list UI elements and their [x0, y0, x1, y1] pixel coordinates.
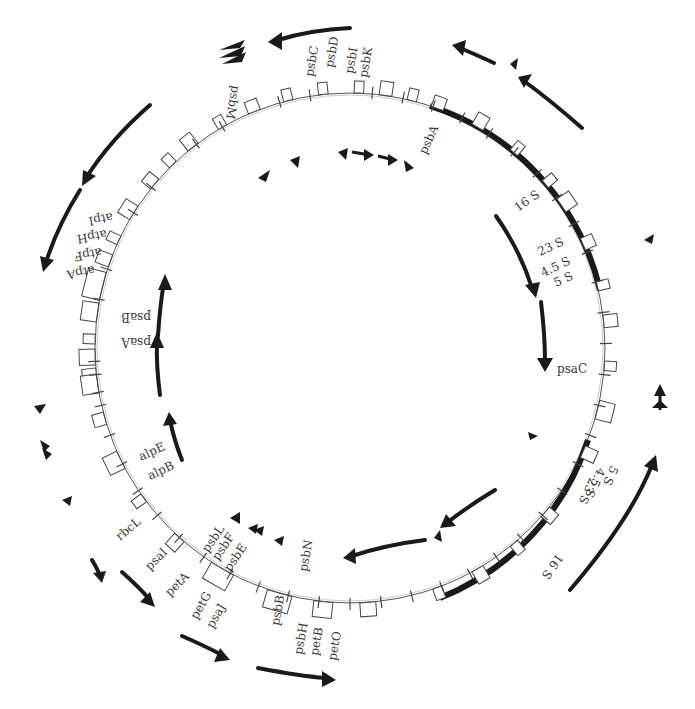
transcript-arrow-bottom-3 — [258, 668, 325, 678]
gene-label-psbM: psbM — [223, 84, 243, 120]
gene-block — [407, 88, 419, 102]
transcript-arrow-inner-bottom-1 — [448, 490, 495, 522]
transcript-arrow-topright-2 — [524, 81, 582, 128]
arrowhead-icon — [62, 496, 72, 506]
gene-block — [161, 153, 176, 168]
arrowhead-icon — [388, 154, 398, 166]
arrowhead-icon — [434, 530, 442, 542]
gene-label-16S-a: 16 S — [512, 187, 542, 214]
gene-block — [354, 81, 364, 93]
gene-label-psbA: psbA — [416, 123, 442, 157]
gene-block — [595, 400, 615, 423]
transcript-arrow-upperleft-1 — [86, 105, 150, 178]
gene-tick — [278, 96, 281, 108]
gene-block — [281, 88, 293, 102]
gene-label-alpB: alpB — [145, 458, 176, 482]
arrowhead-icon — [158, 274, 172, 290]
arrowhead-icon — [452, 40, 466, 56]
arrowhead-icon — [404, 160, 414, 172]
gene-label-psbN: psbN — [296, 539, 315, 573]
gene-block — [557, 191, 578, 212]
gene-block — [317, 82, 328, 95]
gene-block — [102, 451, 125, 475]
gene-block — [433, 586, 446, 601]
genome-ring-inner — [97, 95, 603, 601]
arrowhead-icon — [40, 256, 54, 272]
gene-tick — [372, 87, 373, 99]
arrowhead-icon — [258, 170, 270, 182]
transcript-arrow-inner-left-1 — [170, 420, 182, 460]
gene-blocks — [79, 81, 618, 619]
arrowhead-icon — [510, 58, 518, 70]
gene-tick — [88, 361, 100, 362]
gene-label-petB: petB — [307, 626, 326, 657]
gene-label-rbcL: rbcL — [113, 514, 144, 543]
transcript-arrows — [40, 28, 658, 687]
transcript-arrow-inner-left-3 — [158, 282, 164, 336]
arrowhead-icon — [290, 156, 300, 168]
gene-label-psbD: psbD — [322, 35, 341, 68]
arrowhead-icon — [268, 32, 282, 50]
arrowhead-icon — [322, 671, 336, 687]
gene-block — [131, 494, 146, 509]
gene-tick — [598, 312, 610, 314]
gene-label-23S-b: 23 S — [576, 476, 600, 507]
gene-block — [379, 81, 394, 97]
gene-label-16S-b: 16 S — [539, 551, 566, 581]
arrowhead-icon — [644, 234, 654, 244]
gene-label-atpH: atpH — [76, 227, 108, 246]
arrowhead-icon — [93, 571, 106, 583]
gene-tick — [101, 267, 112, 271]
arrowhead-icon — [537, 358, 553, 372]
gene-block — [79, 349, 96, 366]
gene-tick — [410, 591, 413, 603]
arrowhead-icon — [528, 432, 538, 440]
gene-block — [83, 334, 95, 344]
arrowhead-icon — [274, 536, 284, 546]
gene-label-psaB: psaB — [121, 310, 151, 324]
gene-tick — [95, 404, 107, 407]
arrowhead-icon — [42, 448, 52, 460]
gene-block — [80, 374, 99, 395]
arrowhead-icon — [652, 400, 668, 408]
gene-block — [360, 602, 377, 617]
gene-block — [603, 314, 618, 328]
transcript-arrow-right-inner-2 — [541, 302, 545, 362]
gene-tick — [380, 596, 381, 608]
transcript-arrow-right-inner-1 — [496, 216, 532, 288]
gene-label-psaC: psaC — [557, 362, 587, 376]
genome-ring — [95, 93, 605, 603]
gene-tick — [309, 89, 311, 101]
gene-tick — [599, 374, 611, 375]
gene-label-psbC: psbC — [302, 45, 321, 78]
transcript-arrow-bottom-2 — [182, 636, 222, 655]
transcript-arrow-topright-1 — [460, 48, 494, 63]
arrowhead-icon — [230, 512, 240, 524]
gene-label-psaA: psaA — [121, 335, 151, 349]
gene-block — [92, 412, 107, 428]
gene-labels: psbMpsbCpsbDpsbIpsbKpsbA16 S23 S4.5 S5 S… — [65, 35, 621, 661]
arrowhead-icon — [364, 149, 374, 161]
genome-map: psbMpsbCpsbDpsbIpsbKpsbA16 S23 S4.5 S5 S… — [0, 0, 695, 709]
arrowhead-icon — [34, 404, 46, 414]
gene-block — [80, 301, 99, 322]
arrowhead-icon — [343, 548, 356, 564]
gene-block — [604, 361, 617, 371]
arrowhead-icon — [525, 282, 540, 298]
gene-label-alpE: alpE — [136, 439, 167, 463]
arrowhead-icon — [163, 412, 177, 426]
gene-label-petO: petO — [325, 630, 344, 662]
inverted-repeat-a — [430, 106, 600, 290]
inverted-repeat-b — [440, 440, 588, 598]
gene-label-psaI: psaI — [142, 545, 170, 573]
transcript-arrow-bottom-1 — [122, 572, 150, 600]
transcript-arrow-inner-bottom-2 — [352, 540, 425, 556]
arrowhead-icon — [338, 148, 348, 160]
gene-label-23S-a: 23 S — [535, 234, 566, 258]
gene-block — [244, 98, 260, 114]
gene-block — [312, 601, 333, 619]
gene-tick — [402, 92, 404, 104]
gene-label-petA: petA — [162, 569, 192, 599]
transcript-arrow-inner-left-2 — [157, 340, 160, 395]
gene-label-atpI: atpI — [87, 210, 114, 228]
